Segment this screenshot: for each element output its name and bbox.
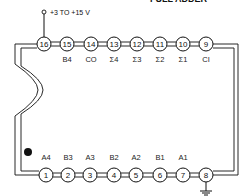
pin-number: 15 [63, 40, 72, 49]
pin-10: 10Σ1 [176, 37, 190, 64]
pin-3: 3A3 [83, 153, 97, 182]
pin-6: 6B1 [153, 153, 167, 182]
pin-label: B1 [155, 153, 164, 162]
top-pin-row: 1615B414CO13Σ412Σ311Σ210Σ19CI [37, 37, 213, 64]
pin-number: 5 [134, 171, 139, 180]
pin-5: 5A2 [129, 153, 143, 182]
pin-16: 16 [37, 37, 51, 51]
pin-13: 13Σ4 [107, 37, 121, 64]
pin-number: 10 [179, 40, 188, 49]
pin-number: 2 [66, 171, 71, 180]
pin1-indicator-dot [24, 148, 32, 156]
pin-label: CO [85, 55, 96, 64]
pin-number: 1 [44, 171, 49, 180]
supply-label: +3 TO +15 V [50, 9, 90, 16]
pin-label: Σ4 [110, 55, 119, 64]
pin-12: 12Σ3 [130, 37, 144, 64]
pin-1: 1A4 [39, 153, 53, 182]
pin-number: 11 [156, 40, 165, 49]
pin-number: 14 [87, 40, 96, 49]
power-supply: +3 TO +15 V [42, 9, 90, 37]
pin-label: CI [202, 55, 210, 64]
diagram-title: FULL ADDER [150, 0, 207, 4]
pin-label: Σ2 [156, 55, 165, 64]
pin-2: 2B3 [61, 153, 75, 182]
pin-9: 9CI [199, 37, 213, 64]
pin-number: 3 [88, 171, 93, 180]
pin-label: B3 [63, 153, 72, 162]
pin-number: 13 [110, 40, 119, 49]
pin-number: 16 [40, 40, 49, 49]
pin-label: B2 [109, 153, 118, 162]
pin-number: 12 [133, 40, 142, 49]
ground-icon [200, 182, 212, 195]
pin-label: A1 [178, 153, 187, 162]
pin-7: 7A1 [176, 153, 190, 182]
bottom-pin-row: 1A42B33A34B25A26B17A18 [39, 153, 213, 182]
pin-label: Σ3 [133, 55, 142, 64]
pin-14: 14CO [84, 37, 98, 64]
pin-number: 7 [181, 171, 186, 180]
pin-number: 9 [204, 40, 209, 49]
pin-8: 8 [199, 168, 213, 182]
pin-15: 15B4 [60, 37, 74, 64]
pin-label: A4 [41, 153, 50, 162]
pin-label: B4 [62, 55, 71, 64]
pin-label: Σ1 [179, 55, 188, 64]
pin-4: 4B2 [107, 153, 121, 182]
pin-number: 8 [204, 171, 209, 180]
pin-11: 11Σ2 [153, 37, 167, 64]
pin-number: 6 [158, 171, 163, 180]
pin-number: 4 [112, 171, 117, 180]
pin-label: A2 [131, 153, 140, 162]
pin-label: A3 [85, 153, 94, 162]
supply-terminal-icon [42, 10, 46, 14]
ic-pinout-diagram: FULL ADDER +3 TO +15 V 1615B414CO13Σ412Σ… [0, 0, 249, 196]
